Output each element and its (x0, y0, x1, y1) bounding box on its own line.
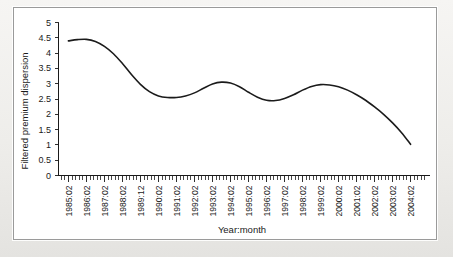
x-tick-group (61, 176, 425, 183)
x-tick-label: 1995:02 (244, 185, 254, 216)
x-tick-label: 2000:02 (334, 185, 344, 216)
y-axis-title: Filtered premium dispersion (19, 52, 30, 169)
x-tick-label: 1988:02 (118, 185, 128, 216)
figure-panel: Filtered premium dispersion 0 0.5 1 1.5 … (13, 7, 437, 240)
x-tick-label: 1985:02 (64, 185, 74, 216)
x-tick-label: 1989:12 (136, 185, 146, 216)
x-tick-label: 1994:02 (226, 185, 236, 216)
x-tick-label: 1986:02 (82, 185, 92, 216)
y-tick-group: 0 0.5 1 1.5 2 2.5 3 3.5 4 4.5 (38, 18, 58, 181)
data-series-line (68, 39, 410, 144)
y-tick-label: 1.5 (38, 125, 51, 135)
screenshot-page: Filtered premium dispersion 0 0.5 1 1.5 … (0, 0, 453, 257)
x-tick-label: 2003:02 (388, 185, 398, 216)
y-tick-label: 1 (46, 140, 51, 150)
x-tick-label: 1990:02 (154, 185, 164, 216)
x-tick-label: 1999:02 (316, 185, 326, 216)
y-tick-label: 0.5 (38, 155, 51, 165)
y-tick-label: 2.5 (38, 94, 51, 104)
x-axis-title: Year:month (218, 224, 266, 235)
x-tick-label: 1996:02 (262, 185, 272, 216)
x-tick-label: 1998:02 (298, 185, 308, 216)
y-tick-label: 3 (46, 79, 51, 89)
x-tick-label: 1991:02 (172, 185, 182, 216)
x-tick-label: 1993:02 (208, 185, 218, 216)
x-tick-label: 1997:02 (280, 185, 290, 216)
y-tick-label: 3.5 (38, 63, 51, 73)
x-tick-label: 2001:02 (352, 185, 362, 216)
x-tick-label: 1987:02 (100, 185, 110, 216)
x-tick-label: 1992:02 (190, 185, 200, 216)
y-tick-label: 0 (46, 171, 51, 181)
y-tick-label: 4 (46, 48, 51, 58)
line-chart: Filtered premium dispersion 0 0.5 1 1.5 … (14, 8, 436, 239)
y-tick-label: 2 (46, 109, 51, 119)
x-tick-label: 2002:02 (370, 185, 380, 216)
x-tick-label: 2004:02 (406, 185, 416, 216)
x-tick-label-group: 1985:021986:021987:021988:021989:121990:… (64, 185, 416, 216)
y-tick-label: 5 (46, 18, 51, 28)
y-tick-label: 4.5 (38, 33, 51, 43)
